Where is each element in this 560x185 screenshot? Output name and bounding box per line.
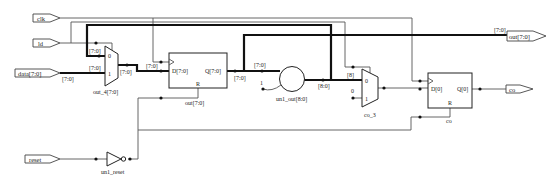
wire-reset-ff[interactable] [138, 108, 450, 130]
bus-label-out-port: [7:0] [494, 27, 506, 34]
inverter-label: un1_reset [101, 169, 125, 175]
adder-un1-out[interactable] [280, 67, 305, 92]
mux-co3[interactable]: 0 1 [362, 69, 378, 107]
port-ld[interactable]: ld [33, 39, 60, 47]
port-reset-label: reset [29, 156, 41, 163]
mux-co3-pin0: 0 [365, 78, 368, 84]
bus-out[interactable] [244, 35, 507, 71]
flipflop-co[interactable]: D[0] Q[0] R [428, 73, 472, 108]
port-data-label: data[7:0] [18, 70, 41, 78]
port-out-label: out[7:0] [509, 33, 530, 41]
inversion-bubble-icon [121, 157, 125, 161]
mux-out4[interactable]: 0 1 [105, 46, 118, 86]
port-co-label: co [509, 86, 515, 93]
wire-adder-const[interactable] [263, 85, 281, 90]
bus-label-mux-in1: [7:0] [89, 65, 101, 72]
bus-label-data-in: [7:0] [62, 76, 74, 83]
adder-label: un1_out[8:0] [276, 96, 307, 103]
schematic-canvas: clk ld data[7:0] reset out[7:0] co 0 1 o… [0, 0, 560, 185]
ff-pin-q: Q[0] [457, 86, 468, 93]
bus-label-reg-d: [7:0] [146, 63, 158, 70]
reg-pin-r: R [196, 81, 200, 87]
bus-label-carry-bit: [8] [347, 72, 354, 79]
reg-pin-d: D[7:0] [172, 68, 188, 75]
mux-out4-label: out_4[7:0] [93, 89, 118, 96]
port-out[interactable]: out[7:0] [507, 31, 546, 41]
port-clk-label: clk [37, 15, 46, 22]
port-co[interactable]: co [506, 85, 533, 93]
ff-pin-r: R [448, 100, 452, 106]
register-out[interactable]: D[7:0] Q[7:0] R [169, 53, 227, 88]
mux-co3-const-label: 0 [351, 88, 354, 94]
bus-label-adder-in: [7:0] [254, 62, 266, 69]
mux-co3-label: co_3 [364, 112, 376, 118]
bus-label-reg-q: [7:0] [234, 75, 246, 82]
mux-out4-pin1: 1 [108, 71, 111, 77]
port-clk[interactable]: clk [33, 14, 60, 22]
port-ld-label: ld [38, 40, 44, 47]
mux-co3-pin1: 1 [365, 96, 368, 102]
port-data[interactable]: data[7:0] [15, 69, 60, 78]
reg-pin-q: Q[7:0] [205, 68, 221, 75]
port-reset[interactable]: reset [25, 155, 60, 163]
flipflop-co-label: co [446, 118, 452, 124]
inverter-un1-reset[interactable] [107, 152, 126, 166]
register-out-label: out[7:0] [185, 100, 204, 107]
mux-out4-pin0: 0 [108, 53, 111, 59]
adder-const-label: 1 [260, 80, 263, 86]
bus-label-mux-in0: [7:0] [89, 48, 101, 55]
bus-label-adder-out: [8:0] [318, 83, 330, 90]
bus-label-mux-out: [7:0] [120, 69, 132, 76]
ff-pin-d: D[0] [431, 86, 442, 93]
wire-reset-reg[interactable] [128, 88, 198, 159]
